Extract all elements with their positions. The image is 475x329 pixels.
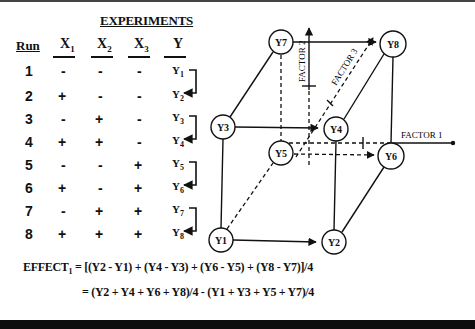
node-label-y5: Y5 <box>275 148 287 159</box>
node-label-y3: Y3 <box>217 122 229 133</box>
bottom-border <box>0 320 475 329</box>
node-label-y7: Y7 <box>275 37 287 48</box>
node-label-y4: Y4 <box>330 124 342 135</box>
node-label-y6: Y6 <box>385 151 397 162</box>
effect-lhs: EFFECT <box>23 260 69 274</box>
cube-diagram: Y7 Y8 Y3 Y4 Y5 Y6 Y1 Y2 FACTOR 1 FACTOR … <box>0 0 475 329</box>
effect-equation-line2: = (Y2 + Y4 + Y6 + Y8)/4 - (Y1 + Y3 + Y5 … <box>82 285 314 300</box>
node-label-y1: Y1 <box>215 235 227 246</box>
cube-nodes <box>209 30 406 254</box>
node-label-y2: Y2 <box>328 237 340 248</box>
effect-rhs-2: = (Y2 + Y4 + Y6 + Y8)/4 - (Y1 + Y3 + Y5 … <box>82 285 314 299</box>
effect-lhs-sub: 1 <box>69 267 73 276</box>
factor1-label: FACTOR 1 <box>401 130 442 140</box>
effect-rhs-1: = [(Y2 - Y1) + (Y4 - Y3) + (Y6 - Y5) + (… <box>75 260 313 274</box>
factor3-label: FACTOR 3 <box>329 46 360 87</box>
factor2-label: FACTOR 2 <box>297 41 307 82</box>
effect-equation-line1: EFFECT1 = [(Y2 - Y1) + (Y4 - Y3) + (Y6 -… <box>23 260 313 276</box>
pair-brackets <box>184 70 196 231</box>
cube-edges <box>221 42 393 242</box>
node-label-y8: Y8 <box>387 39 399 50</box>
